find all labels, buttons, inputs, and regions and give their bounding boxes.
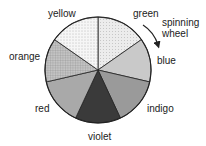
label-yellow: yellow xyxy=(48,8,77,19)
label-orange: orange xyxy=(9,51,41,62)
annotation-spinning: spinning xyxy=(162,17,199,28)
color-wheel-diagram: green blue indigo violet red orange yell… xyxy=(0,0,206,146)
label-red: red xyxy=(35,103,49,114)
color-wheel xyxy=(45,17,151,123)
label-blue: blue xyxy=(157,55,176,66)
label-violet: violet xyxy=(88,131,112,142)
annotation-wheel: wheel xyxy=(161,28,188,39)
label-green: green xyxy=(133,8,159,19)
rotation-arrow-icon xyxy=(143,25,158,45)
label-indigo: indigo xyxy=(147,103,174,114)
